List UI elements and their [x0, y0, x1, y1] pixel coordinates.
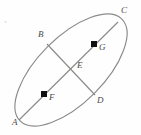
chord-ac	[19, 22, 118, 120]
scan-artifact	[4, 21, 7, 23]
diagram-canvas	[0, 0, 141, 135]
point-label-a: A	[12, 118, 18, 127]
ellipse-outline-group	[0, 0, 141, 135]
point-f-dot	[41, 91, 47, 97]
chords-group	[19, 22, 118, 120]
point-label-b: B	[38, 30, 44, 39]
point-label-d: D	[97, 96, 104, 105]
point-label-f: F	[49, 93, 55, 102]
point-g-dot	[91, 41, 97, 47]
point-label-g: G	[99, 43, 106, 52]
ellipse-diagram: A B C D E F G	[0, 0, 141, 135]
ellipse-outline	[0, 0, 141, 135]
point-label-c: C	[121, 6, 127, 15]
point-label-e: E	[77, 61, 83, 70]
